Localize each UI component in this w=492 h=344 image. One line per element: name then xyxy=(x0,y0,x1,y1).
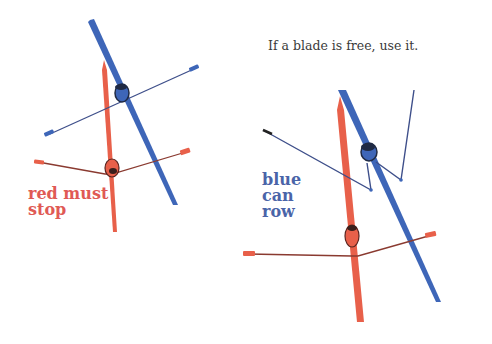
blue-can-row-label: blue can row xyxy=(262,172,301,220)
caption-text: If a blade is free, use it. xyxy=(268,38,418,53)
blue-oar-right-raised xyxy=(376,90,414,180)
blue-label-line-3: row xyxy=(262,204,301,220)
blue-rower-seat-right xyxy=(361,143,375,151)
blue-oarlock-right xyxy=(399,178,403,182)
blue-blade-edge-left xyxy=(263,130,272,134)
red-blade-right-1 xyxy=(180,148,191,156)
blue-boat-hull-left xyxy=(88,19,178,205)
blue-rower-seat-left xyxy=(115,84,127,90)
blue-blade-right xyxy=(189,64,200,72)
red-rower-shadow-left xyxy=(109,168,117,174)
red-blade-left-2 xyxy=(243,251,255,256)
red-blade-left-1 xyxy=(34,159,44,164)
red-must-stop-label: red must stop xyxy=(28,186,108,218)
red-rower-shadow-right xyxy=(347,225,357,231)
red-rower-left xyxy=(105,159,119,177)
diagram-canvas: If a blade is free, use it. red must sto… xyxy=(0,0,492,344)
red-label-line-2: stop xyxy=(28,202,108,218)
blue-oarlock-left xyxy=(369,188,373,192)
red-oar-right xyxy=(248,235,432,256)
blue-blade-left xyxy=(44,129,55,137)
red-blade-right-2 xyxy=(425,231,437,238)
